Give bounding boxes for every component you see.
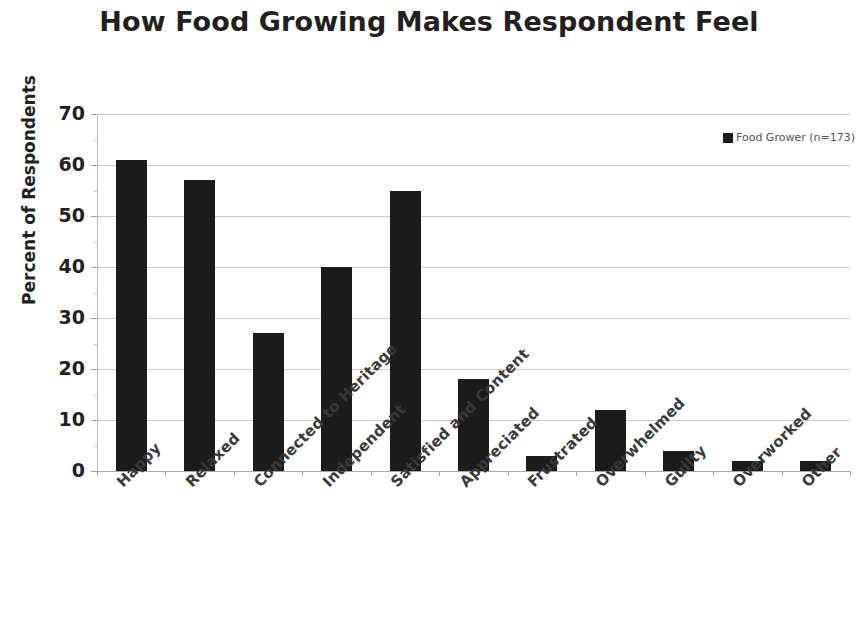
y-axis-tick-label: 30 — [39, 308, 85, 327]
y-axis-line — [97, 114, 98, 471]
y-axis-minor-tick — [94, 191, 97, 192]
x-axis-tick — [508, 471, 509, 476]
y-axis-tick-label: 10 — [39, 410, 85, 429]
bar[interactable] — [184, 180, 215, 471]
y-axis-tick-label: 50 — [39, 206, 85, 225]
bar[interactable] — [390, 191, 421, 472]
x-axis-tick — [645, 471, 646, 476]
x-axis-tick — [713, 471, 714, 476]
y-axis-tick — [91, 267, 97, 268]
y-axis-tick-label: 20 — [39, 359, 85, 378]
plot-area — [97, 114, 850, 471]
y-axis-minor-tick — [94, 242, 97, 243]
x-axis-tick — [302, 471, 303, 476]
y-axis-tick — [91, 420, 97, 421]
y-axis-tick — [91, 369, 97, 370]
y-axis-tick — [91, 318, 97, 319]
x-axis-tick — [165, 471, 166, 476]
y-axis-tick-label: 70 — [39, 104, 85, 123]
chart-title: How Food Growing Makes Respondent Feel — [0, 6, 858, 37]
legend-label: Food Grower (n=173) — [736, 131, 855, 144]
gridline — [97, 165, 850, 166]
y-axis-tick-label: 60 — [39, 155, 85, 174]
gridline — [97, 114, 850, 115]
x-axis-tick — [439, 471, 440, 476]
y-axis-minor-tick — [94, 446, 97, 447]
y-axis-tick-label: 40 — [39, 257, 85, 276]
x-axis-tick — [782, 471, 783, 476]
y-axis-minor-tick — [94, 140, 97, 141]
x-axis-tick — [850, 471, 851, 476]
y-axis-minor-tick — [94, 344, 97, 345]
y-axis-tick — [91, 114, 97, 115]
x-axis-tick — [234, 471, 235, 476]
bar[interactable] — [116, 160, 147, 471]
y-axis-tick — [91, 165, 97, 166]
chart-legend: Food Grower (n=173) — [723, 131, 858, 144]
y-axis-tick-label: 0 — [39, 461, 85, 480]
x-axis-tick — [576, 471, 577, 476]
y-axis-title: Percent of Respondents — [19, 75, 39, 305]
y-axis-minor-tick — [94, 395, 97, 396]
bar[interactable] — [321, 267, 352, 471]
x-axis-tick — [97, 471, 98, 476]
y-axis-tick — [91, 216, 97, 217]
y-axis-minor-tick — [94, 293, 97, 294]
legend-swatch-icon — [723, 133, 733, 143]
x-axis-tick — [371, 471, 372, 476]
